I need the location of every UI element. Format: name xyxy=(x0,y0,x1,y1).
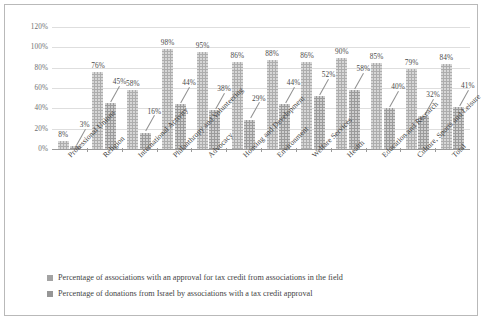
data-label-leader-line xyxy=(180,87,190,103)
bar-group: 86%29% xyxy=(226,27,261,149)
chart-legend: Percentage of associations with an appro… xyxy=(47,273,343,305)
y-axis-tick-label: 80% xyxy=(35,64,48,72)
y-axis-tick-label: 20% xyxy=(35,125,48,133)
y-axis-tick-label: 60% xyxy=(35,84,48,92)
data-label-leader-line xyxy=(354,73,364,89)
legend-item-series-2: Percentage of donations from Israel by a… xyxy=(47,289,343,298)
chart-frame: 0%20%40%60%80%100%120%8%3%76%45%58%16%98… xyxy=(4,4,478,316)
y-axis-tick-label: 40% xyxy=(35,104,48,112)
axis-tick-mark xyxy=(435,148,436,152)
legend-item-series-1: Percentage of associations with an appro… xyxy=(47,273,343,282)
axis-tick-mark xyxy=(122,148,123,152)
y-axis-tick-label: 120% xyxy=(31,23,48,31)
legend-swatch-icon xyxy=(47,291,53,297)
axis-tick-mark xyxy=(366,148,367,152)
y-axis-tick-label: 0% xyxy=(38,145,48,153)
axis-tick-mark xyxy=(331,148,332,152)
data-label-series-1: 84% xyxy=(439,53,453,62)
axis-tick-mark xyxy=(191,148,192,152)
data-label-series-2: 41% xyxy=(461,81,475,90)
axis-tick-mark xyxy=(157,148,158,152)
data-label-series-1: 98% xyxy=(161,38,175,47)
bar-series-1[interactable] xyxy=(58,141,69,149)
data-label-series-1: 79% xyxy=(405,58,419,67)
legend-swatch-icon xyxy=(47,275,53,281)
data-label-leader-line xyxy=(389,91,399,107)
bar-series-1[interactable] xyxy=(371,63,382,149)
bar-group: 8%3% xyxy=(52,27,87,149)
axis-tick-mark xyxy=(226,148,227,152)
data-label-series-1: 58% xyxy=(126,79,140,88)
data-label-leader-line xyxy=(250,102,260,118)
data-label-series-1: 90% xyxy=(335,47,349,56)
bar-series-1[interactable] xyxy=(127,90,138,149)
axis-tick-mark xyxy=(400,148,401,152)
data-label-series-1: 86% xyxy=(300,51,314,60)
legend-label-series-1: Percentage of associations with an appro… xyxy=(58,273,343,282)
data-label-series-1: 8% xyxy=(58,130,68,139)
legend-label-series-2: Percentage of donations from Israel by a… xyxy=(58,289,312,298)
axis-tick-mark xyxy=(261,148,262,152)
data-label-leader-line xyxy=(320,79,330,95)
data-label-series-1: 76% xyxy=(91,61,105,70)
bar-group: 58%16% xyxy=(122,27,157,149)
axis-tick-mark xyxy=(87,148,88,152)
data-label-series-1: 88% xyxy=(265,49,279,58)
axis-tick-mark xyxy=(296,148,297,152)
data-label-series-1: 86% xyxy=(230,51,244,60)
data-label-leader-line xyxy=(145,116,155,132)
data-label-series-1: 95% xyxy=(196,41,210,50)
data-label-leader-line xyxy=(111,86,121,102)
data-label-series-1: 85% xyxy=(370,52,384,61)
y-axis-tick-label: 100% xyxy=(31,43,48,51)
bar-group: 85%40% xyxy=(366,27,401,149)
